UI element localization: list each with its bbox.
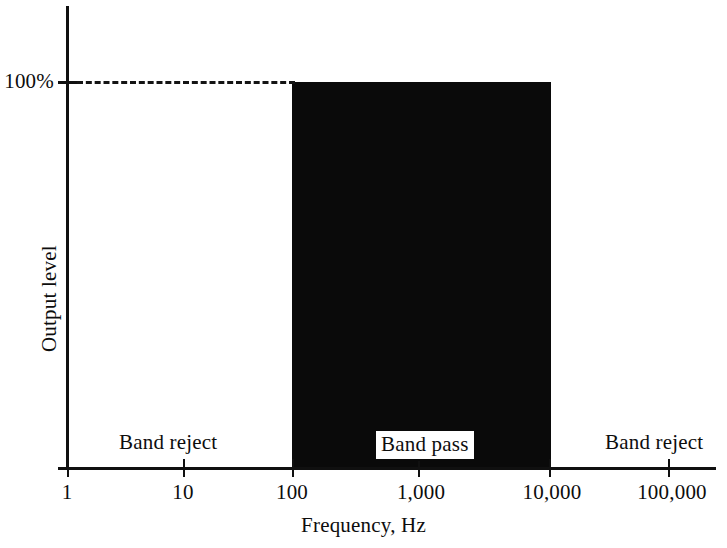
x-tick-label-100: 100 [276, 479, 308, 505]
x-axis-title: Frequency, Hz [0, 512, 727, 538]
x-tick-label-1: 1 [62, 479, 73, 505]
x-axis-tick-10 [183, 459, 185, 477]
y-axis-tick-100 [58, 81, 77, 84]
filter-response-figure: 100% 1 10 100 1,000 10,000 100,000 Band … [0, 0, 727, 548]
annotation-band-pass: Band pass [374, 429, 476, 461]
x-axis-tick-100000 [668, 459, 670, 477]
x-axis-tick-100 [292, 459, 294, 477]
x-tick-label-1000: 1,000 [397, 479, 445, 505]
hundred-percent-guide-line [77, 81, 295, 84]
x-tick-label-100000: 100,000 [637, 479, 707, 505]
y-axis-line [66, 6, 69, 469]
annotation-band-reject-right: Band reject [605, 429, 703, 455]
x-tick-label-10: 10 [172, 479, 193, 505]
x-axis-line [58, 467, 716, 470]
annotation-band-reject-left: Band reject [119, 429, 217, 455]
y-tick-label-100: 100% [4, 68, 54, 94]
x-axis-tick-1000 [418, 459, 420, 477]
y-axis-title: Output level [34, 322, 64, 352]
x-tick-label-10000: 10,000 [523, 479, 582, 505]
x-axis-tick-1 [67, 459, 69, 477]
x-axis-tick-10000 [549, 459, 551, 477]
band-pass-fill-region [292, 82, 551, 468]
